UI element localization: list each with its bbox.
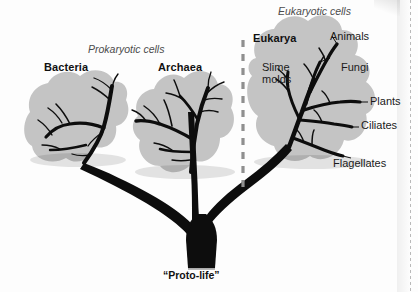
tree-of-life-figure: Prokaryotic cells Eukaryotic cells Bacte…	[0, 0, 418, 292]
heading-eukaryotic-cells: Eukaryotic cells	[278, 6, 351, 17]
taxon-label-animals: Animals	[330, 31, 369, 43]
taxon-label-ciliates: Ciliates	[361, 120, 397, 132]
trunk-group	[186, 214, 217, 270]
archaea-twig-j	[172, 160, 190, 161]
taxon-label-flagellates: Flagellates	[333, 158, 386, 170]
limb-eukarya	[206, 144, 292, 222]
domain-label-bacteria: Bacteria	[44, 62, 88, 74]
archaea-shadow	[135, 165, 235, 179]
slime-molds-line-2: molds	[262, 73, 291, 85]
taxon-label-slime-molds: Slimemolds	[262, 62, 304, 86]
root-label-proto-life: “Proto-life”	[163, 270, 220, 281]
taxon-label-plants: Plants	[370, 96, 401, 108]
slime-molds-line-1: Slime	[262, 61, 290, 73]
phylogenetic-tree-graphic	[0, 0, 418, 292]
page-curl-shading	[397, 0, 410, 292]
heading-prokaryotic-cells: Prokaryotic cells	[88, 44, 164, 55]
page-perforation-edge	[410, 0, 411, 292]
domain-label-archaea: Archaea	[158, 62, 202, 74]
domain-label-eukarya: Eukarya	[253, 33, 297, 45]
taxon-label-fungi: Fungi	[341, 62, 369, 74]
